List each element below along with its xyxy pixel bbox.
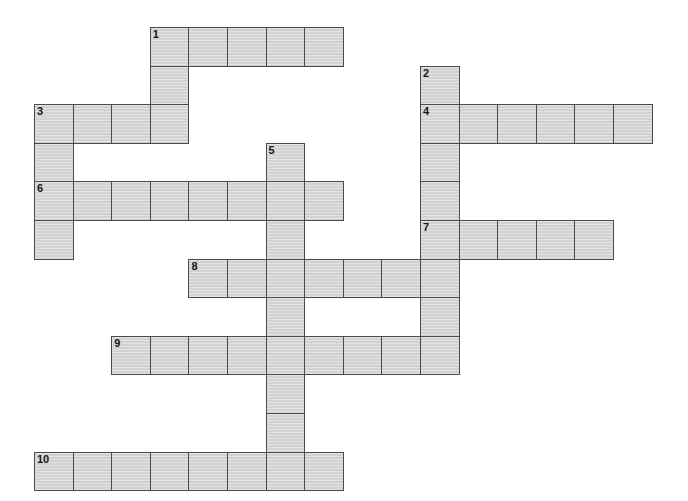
crossword-cell[interactable]: [304, 259, 344, 299]
crossword-cell[interactable]: [304, 181, 344, 221]
crossword-cell[interactable]: [227, 259, 267, 299]
crossword-cell[interactable]: [381, 336, 421, 376]
crossword-cell[interactable]: [150, 104, 190, 144]
clue-number: 10: [37, 453, 49, 466]
crossword-cell[interactable]: 3: [34, 104, 74, 144]
crossword-cell[interactable]: [266, 413, 306, 453]
crossword-cell[interactable]: [420, 336, 460, 376]
crossword-cell[interactable]: [266, 452, 306, 492]
clue-number: 7: [423, 221, 429, 234]
crossword-cell[interactable]: [227, 181, 267, 221]
crossword-cell[interactable]: 2: [420, 66, 460, 106]
crossword-cell[interactable]: 9: [111, 336, 151, 376]
crossword-cell[interactable]: [34, 220, 74, 260]
crossword-cell[interactable]: [304, 336, 344, 376]
crossword-cell[interactable]: [536, 104, 576, 144]
crossword-cell[interactable]: [73, 452, 113, 492]
crossword-cell[interactable]: [266, 336, 306, 376]
crossword-cell[interactable]: [73, 104, 113, 144]
crossword-cell[interactable]: [227, 336, 267, 376]
crossword-cell[interactable]: [497, 104, 537, 144]
crossword-cell[interactable]: [227, 452, 267, 492]
crossword-cell[interactable]: 5: [266, 143, 306, 183]
crossword-cell[interactable]: [150, 452, 190, 492]
crossword-cell[interactable]: [613, 104, 653, 144]
crossword-cell[interactable]: [111, 104, 151, 144]
crossword-cell[interactable]: 10: [34, 452, 74, 492]
crossword-cell[interactable]: [420, 181, 460, 221]
crossword-cell[interactable]: [420, 259, 460, 299]
clue-number: 3: [37, 105, 43, 118]
clue-number: 8: [191, 260, 197, 273]
crossword-cell[interactable]: [343, 259, 383, 299]
crossword-cell[interactable]: [73, 181, 113, 221]
crossword-grid: 12345678910: [0, 0, 688, 501]
crossword-cell[interactable]: [266, 220, 306, 260]
crossword-cell[interactable]: [266, 27, 306, 67]
crossword-cell[interactable]: [266, 259, 306, 299]
crossword-cell[interactable]: [34, 143, 74, 183]
crossword-cell[interactable]: [574, 220, 614, 260]
crossword-cell[interactable]: [111, 452, 151, 492]
crossword-cell[interactable]: [497, 220, 537, 260]
crossword-cell[interactable]: [188, 181, 228, 221]
crossword-cell[interactable]: [150, 181, 190, 221]
crossword-cell[interactable]: [266, 297, 306, 337]
crossword-cell[interactable]: [536, 220, 576, 260]
crossword-cell[interactable]: [266, 374, 306, 414]
crossword-cell[interactable]: [381, 259, 421, 299]
crossword-cell[interactable]: [266, 181, 306, 221]
crossword-cell[interactable]: [304, 27, 344, 67]
crossword-cell[interactable]: [188, 452, 228, 492]
crossword-cell[interactable]: [420, 143, 460, 183]
crossword-cell[interactable]: [150, 66, 190, 106]
clue-number: 5: [269, 144, 275, 157]
crossword-cell[interactable]: [188, 336, 228, 376]
crossword-cell[interactable]: 7: [420, 220, 460, 260]
clue-number: 9: [114, 337, 120, 350]
crossword-cell[interactable]: [343, 336, 383, 376]
crossword-cell[interactable]: [459, 104, 499, 144]
crossword-cell[interactable]: 6: [34, 181, 74, 221]
crossword-cell[interactable]: [459, 220, 499, 260]
crossword-cell[interactable]: [227, 27, 267, 67]
crossword-cell[interactable]: [111, 181, 151, 221]
clue-number: 2: [423, 67, 429, 80]
crossword-cell[interactable]: [188, 27, 228, 67]
crossword-cell[interactable]: 4: [420, 104, 460, 144]
crossword-cell[interactable]: [420, 297, 460, 337]
crossword-cell[interactable]: 1: [150, 27, 190, 67]
crossword-cell[interactable]: 8: [188, 259, 228, 299]
clue-number: 6: [37, 182, 43, 195]
crossword-cell[interactable]: [150, 336, 190, 376]
clue-number: 1: [153, 28, 159, 41]
crossword-cell[interactable]: [574, 104, 614, 144]
crossword-cell[interactable]: [304, 452, 344, 492]
clue-number: 4: [423, 105, 429, 118]
